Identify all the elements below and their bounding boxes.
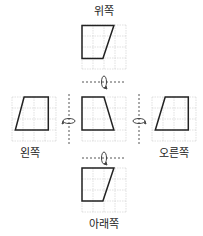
figure-center <box>82 97 126 141</box>
trapezoid-shape <box>82 168 114 201</box>
flip-diagram: 위쪽 왼쪽 오른쪽 아래쪽 <box>0 0 203 236</box>
trapezoid-shape <box>15 97 48 130</box>
trapezoid-shape <box>82 97 114 130</box>
figure-top <box>82 25 126 69</box>
trapezoid-shape <box>155 97 188 130</box>
figure-bottom <box>82 168 126 212</box>
label-bottom: 아래쪽 <box>89 218 119 231</box>
figure-right <box>152 97 196 141</box>
label-right: 오른쪽 <box>159 147 189 160</box>
trapezoid-shape <box>82 26 114 59</box>
label-left: 왼쪽 <box>20 146 40 160</box>
label-top: 위쪽 <box>94 5 114 18</box>
figure-left <box>12 97 56 141</box>
